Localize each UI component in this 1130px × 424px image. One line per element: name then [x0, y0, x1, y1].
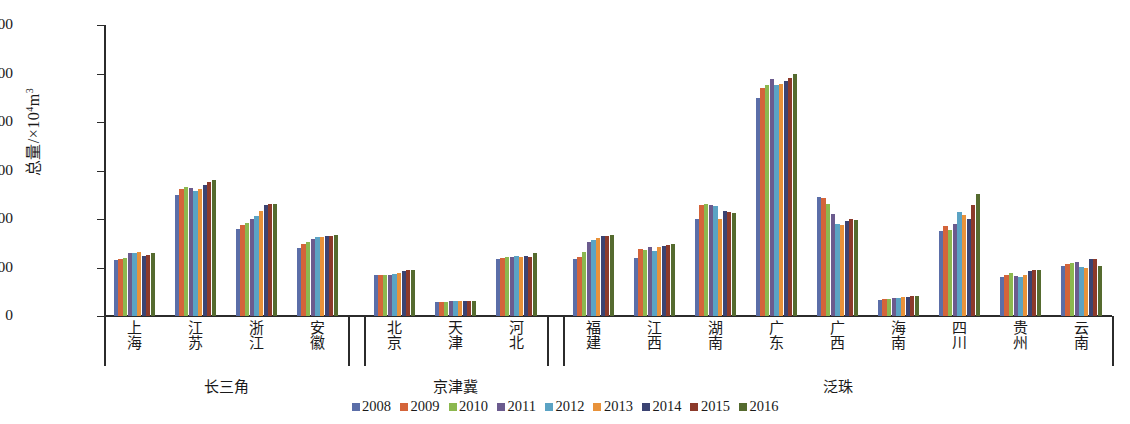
bar — [943, 226, 947, 316]
bar — [1032, 270, 1036, 316]
y-tick-label: 2000 — [0, 258, 13, 276]
legend-item[interactable]: 2010 — [449, 398, 489, 415]
y-tick — [97, 74, 104, 75]
bar — [1018, 277, 1022, 316]
category-label: 北京 — [364, 317, 425, 377]
bar-group — [226, 25, 287, 316]
bar — [831, 214, 835, 316]
bar — [976, 194, 980, 316]
bar — [784, 81, 788, 316]
bar — [198, 189, 202, 316]
region-label: 泛珠 — [563, 372, 1112, 398]
bar-group — [685, 25, 746, 316]
bar — [793, 74, 797, 317]
bar-group — [486, 25, 547, 316]
bar — [727, 212, 731, 316]
bar — [587, 242, 591, 316]
legend-label: 2016 — [749, 398, 778, 415]
bar — [671, 244, 675, 316]
bar — [643, 250, 647, 316]
bar — [1098, 266, 1102, 316]
category-label: 贵州 — [990, 317, 1051, 377]
bar — [953, 224, 957, 316]
bar — [596, 238, 600, 316]
bar — [657, 247, 661, 316]
y-tick-label: 6000 — [0, 161, 13, 179]
legend-item[interactable]: 2014 — [642, 398, 682, 415]
y-tick — [97, 122, 104, 123]
bar — [334, 235, 338, 316]
bar — [845, 221, 849, 316]
legend-item[interactable]: 2015 — [690, 398, 730, 415]
region-label: 京津冀 — [364, 372, 547, 398]
y-tick-label: 0 — [5, 306, 13, 324]
legend-item[interactable]: 2013 — [593, 398, 633, 415]
legend-label: 2008 — [362, 398, 391, 415]
bar — [1009, 273, 1013, 316]
bar-group — [624, 25, 685, 316]
bar — [505, 257, 509, 316]
bar — [402, 271, 406, 316]
legend-item[interactable]: 2012 — [545, 398, 585, 415]
bar — [1028, 271, 1032, 316]
bar — [315, 237, 319, 316]
bar — [910, 296, 914, 316]
bar-group — [746, 25, 807, 316]
axis-separator — [104, 316, 106, 366]
bar — [411, 270, 415, 316]
bar — [826, 204, 830, 316]
axis-separator — [1112, 316, 1114, 366]
legend-item[interactable]: 2016 — [739, 398, 779, 415]
legend-label: 2015 — [701, 398, 730, 415]
bar — [301, 244, 305, 316]
legend-swatch-icon — [642, 403, 650, 411]
bar — [137, 252, 141, 317]
bar — [1000, 277, 1004, 316]
bar — [695, 219, 699, 316]
bar — [760, 88, 764, 316]
legend-item[interactable]: 2009 — [400, 398, 440, 415]
axis-separator — [348, 316, 350, 366]
bar — [774, 85, 778, 316]
category-label: 云南 — [1051, 317, 1112, 377]
bar — [273, 204, 277, 316]
legend-swatch-icon — [690, 403, 698, 411]
bar — [435, 302, 439, 316]
bar — [638, 249, 642, 316]
legend-swatch-icon — [593, 403, 601, 411]
bar — [439, 302, 443, 316]
bar — [582, 252, 586, 316]
bar — [240, 225, 244, 316]
axis-separator — [563, 316, 565, 366]
bar — [1004, 275, 1008, 316]
category-axis-labels: 上海江苏浙江安徽北京天津河北福建江西湖南广东广西海南四川贵州云南 — [104, 317, 1112, 377]
legend-item[interactable]: 2008 — [352, 398, 392, 415]
bar — [756, 98, 760, 316]
legend-swatch-icon — [400, 403, 408, 411]
bar — [236, 229, 240, 316]
category-label: 湖南 — [685, 317, 746, 377]
bar — [723, 211, 727, 316]
bar — [179, 189, 183, 316]
bar — [939, 231, 943, 316]
bar — [652, 251, 656, 316]
legend-label: 2013 — [604, 398, 633, 415]
bar — [444, 302, 448, 316]
y-tick-label: 12 000 — [0, 15, 13, 33]
legend-label: 2012 — [555, 398, 584, 415]
bar — [406, 270, 410, 316]
y-tick-label: 10 000 — [0, 64, 13, 82]
bar — [203, 185, 207, 316]
legend-label: 2011 — [508, 398, 536, 415]
legend-item[interactable]: 2011 — [497, 398, 536, 415]
bar — [573, 259, 577, 316]
bar — [821, 198, 825, 316]
bar — [472, 301, 476, 316]
bar — [577, 257, 581, 316]
bar — [1065, 264, 1069, 316]
bar — [662, 246, 666, 316]
bar — [514, 256, 518, 316]
bar — [648, 247, 652, 316]
bar — [189, 188, 193, 316]
bar-group — [929, 25, 990, 316]
